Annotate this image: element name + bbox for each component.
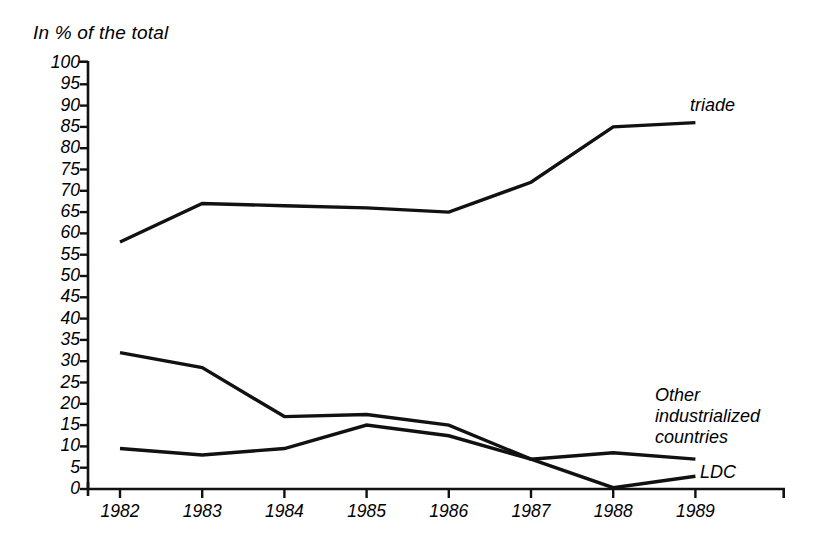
plot-area bbox=[0, 0, 822, 553]
series-line-ldc bbox=[120, 425, 695, 488]
series-line-triade bbox=[120, 123, 695, 242]
chart-container: In % of the total 1009590858075706560555… bbox=[0, 0, 822, 553]
series-line-other-industrialized-countries bbox=[120, 353, 695, 460]
